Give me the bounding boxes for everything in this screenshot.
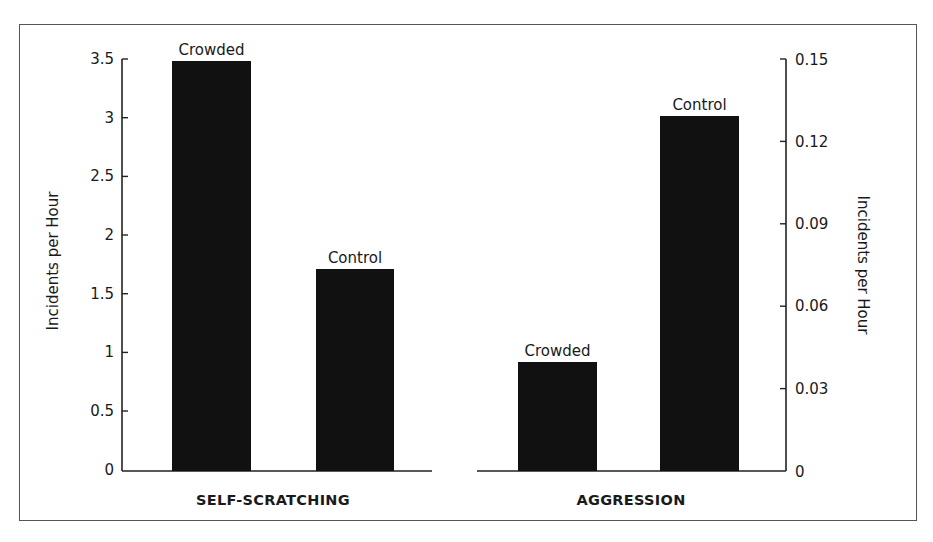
right-y-axis-title: Incidents per Hour (854, 196, 872, 336)
left-tick-3.5: 3.5 (90, 50, 114, 68)
bar-label-aggression-control: Control (672, 96, 726, 114)
right-tick-0.06: 0.06 (795, 297, 828, 315)
self-scratching-panel: Crowded Control SELF-SCRATCHING (172, 41, 394, 508)
right-tick-0.15: 0.15 (795, 51, 828, 69)
left-tick-0.5: 0.5 (90, 402, 114, 420)
bar-self-scratching-control (316, 269, 394, 471)
left-y-axis: 3.5 3 2.5 2 1.5 1 0.5 0 Incidents per Ho… (44, 50, 128, 479)
bar-chart: 3.5 3 2.5 2 1.5 1 0.5 0 Incidents per Ho… (0, 0, 933, 542)
right-y-axis: 0.15 0.12 0.09 0.06 0.03 0 Incidents per… (780, 51, 872, 481)
right-tick-0.12: 0.12 (795, 133, 828, 151)
bar-aggression-crowded (518, 362, 597, 471)
right-tick-0: 0 (795, 463, 805, 481)
left-tick-1.5: 1.5 (90, 285, 114, 303)
bar-aggression-control (660, 116, 739, 471)
category-label-self-scratching: SELF-SCRATCHING (196, 492, 350, 508)
left-tick-1: 1 (104, 343, 114, 361)
bar-label-self-scratching-control: Control (328, 249, 382, 267)
right-tick-0.09: 0.09 (795, 215, 828, 233)
category-label-aggression: AGGRESSION (576, 492, 685, 508)
bar-label-aggression-crowded: Crowded (524, 342, 590, 360)
aggression-panel: Crowded Control AGGRESSION (518, 96, 739, 508)
bar-self-scratching-crowded (172, 61, 251, 471)
left-tick-0: 0 (104, 461, 114, 479)
left-tick-2.5: 2.5 (90, 167, 114, 185)
left-y-axis-title: Incidents per Hour (44, 191, 62, 331)
bar-label-self-scratching-crowded: Crowded (178, 41, 244, 59)
left-tick-2: 2 (104, 226, 114, 244)
left-tick-3: 3 (104, 109, 114, 127)
right-tick-0.03: 0.03 (795, 380, 828, 398)
